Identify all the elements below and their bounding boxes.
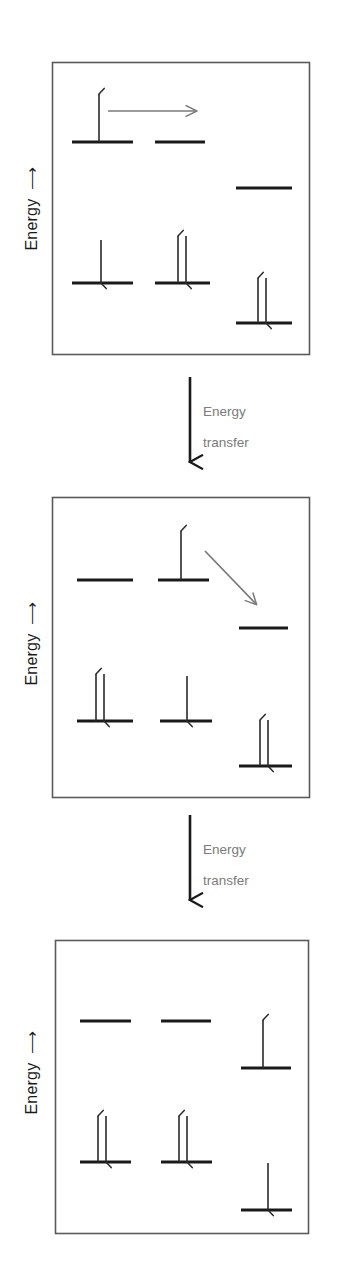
panel-1 [53,63,310,355]
energy-transfer-diagram: Energy ⟶ Energy ⟶ Energy ⟶ Energy transf… [0,0,340,1269]
panel-1-frame [53,63,310,355]
diagram-canvas [0,0,340,1269]
panel-3 [56,941,309,1234]
panel-3-frame [56,941,309,1234]
panel-2 [53,498,310,798]
